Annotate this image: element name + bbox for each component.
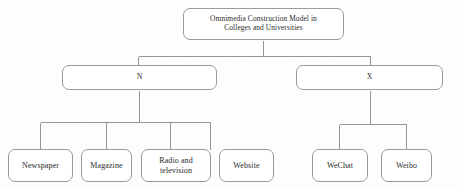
node-leaf-radio-and-television[interactable]: Radio and television [141,149,211,182]
node-leaf-magazine-label: Magazine [87,161,125,170]
node-leaf-wechat[interactable]: WeChat [312,149,368,182]
node-root-label: Omnimedia Construction Model in Colleges… [207,15,320,32]
node-leaf-website[interactable]: Website [219,149,274,182]
node-branch-x[interactable]: X [296,65,443,90]
node-branch-n[interactable]: N [62,65,217,90]
node-root-omnimedia-model[interactable]: Omnimedia Construction Model in Colleges… [183,8,344,40]
node-leaf-newspaper-label: Newspaper [19,161,62,170]
omnimedia-construction-model-diagram: Omnimedia Construction Model in Colleges… [0,0,458,188]
node-branch-x-label: X [364,73,376,82]
node-leaf-newspaper[interactable]: Newspaper [8,149,73,182]
node-leaf-weibo[interactable]: Weibo [381,149,432,182]
node-branch-n-label: N [134,73,146,82]
node-leaf-wechat-label: WeChat [324,161,356,170]
node-leaf-weibo-label: Weibo [393,161,420,170]
node-leaf-magazine[interactable]: Magazine [81,149,132,182]
node-leaf-radio-and-television-label: Radio and television [156,156,196,175]
node-leaf-website-label: Website [230,161,262,170]
